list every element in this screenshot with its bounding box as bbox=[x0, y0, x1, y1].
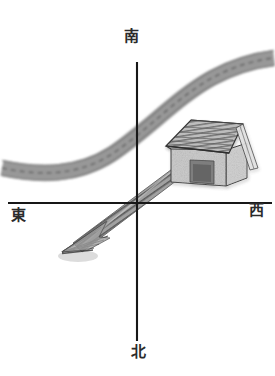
house-sketch bbox=[166, 120, 258, 189]
direction-label-west: 西 bbox=[249, 203, 264, 218]
direction-label-east: 東 bbox=[11, 208, 26, 223]
diagram-canvas bbox=[0, 0, 275, 376]
direction-label-south: 南 bbox=[124, 29, 139, 44]
compass-diagram: 南 北 東 西 bbox=[0, 0, 275, 376]
direction-label-north: 北 bbox=[131, 345, 146, 360]
